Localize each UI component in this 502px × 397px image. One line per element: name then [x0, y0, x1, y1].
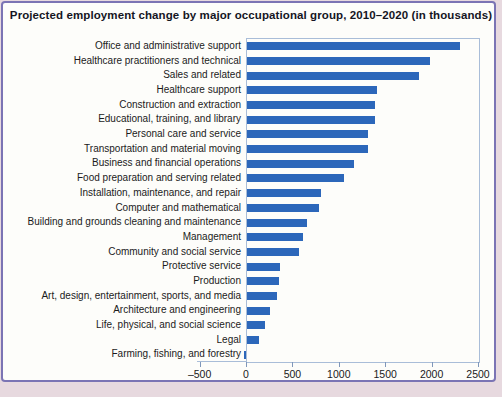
category-label: Transportation and material moving [0, 142, 241, 157]
bar-row: Farming, fishing, and forestry [0, 347, 502, 362]
category-label: Healthcare support [0, 83, 241, 98]
x-axis-tick [200, 362, 201, 367]
bar-row: Food preparation and serving related [0, 171, 502, 186]
bar-row: Production [0, 274, 502, 289]
category-label: Management [0, 230, 241, 245]
x-axis-tick [478, 362, 479, 367]
bar-row: Installation, maintenance, and repair [0, 186, 502, 201]
bar [247, 189, 321, 197]
category-label: Protective service [0, 259, 241, 274]
category-label: Architecture and engineering [0, 303, 241, 318]
x-axis-tick [246, 362, 247, 367]
bar-row: Educational, training, and library [0, 112, 502, 127]
bar [247, 42, 460, 50]
bar-row: Management [0, 230, 502, 245]
bar-row: Office and administrative support [0, 39, 502, 54]
bar-row: Healthcare practitioners and technical [0, 54, 502, 69]
x-tick-label: 500 [272, 368, 312, 380]
bar [247, 130, 368, 138]
bar-row: Computer and mathematical [0, 201, 502, 216]
bar [247, 57, 430, 65]
x-tick-label: 0 [226, 368, 266, 380]
bar-row: Architecture and engineering [0, 303, 502, 318]
category-label: Building and grounds cleaning and mainte… [0, 215, 241, 230]
bar [247, 307, 270, 315]
category-label: Food preparation and serving related [0, 171, 241, 186]
bar [247, 321, 265, 329]
bar-row: Sales and related [0, 68, 502, 83]
category-label: Computer and mathematical [0, 201, 241, 216]
bar [247, 292, 277, 300]
bar [247, 72, 419, 80]
category-label: Installation, maintenance, and repair [0, 186, 241, 201]
x-tick-label: 1000 [319, 368, 359, 380]
bar-row: Life, physical, and social science [0, 318, 502, 333]
bar [247, 263, 280, 271]
bar-row: Construction and extraction [0, 98, 502, 113]
category-label: Personal care and service [0, 127, 241, 142]
x-axis-tick [385, 362, 386, 367]
category-label: Farming, fishing, and forestry [0, 347, 241, 362]
bar [247, 204, 319, 212]
bar [247, 86, 377, 94]
bar-row: Personal care and service [0, 127, 502, 142]
category-label: Construction and extraction [0, 98, 241, 113]
bar [247, 336, 259, 344]
bar [247, 160, 354, 168]
x-axis-tick [432, 362, 433, 367]
bar [247, 116, 375, 124]
bar [247, 248, 299, 256]
bar [247, 174, 344, 182]
bar [247, 145, 368, 153]
bar [247, 233, 303, 241]
category-label: Sales and related [0, 68, 241, 83]
category-label: Business and financial operations [0, 156, 241, 171]
bar-row: Art, design, entertainment, sports, and … [0, 289, 502, 304]
category-label: Community and social service [0, 245, 241, 260]
x-tick-label: 1500 [365, 368, 405, 380]
plot-area: Office and administrative supportHealthc… [0, 0, 502, 397]
bar-row: Building and grounds cleaning and mainte… [0, 215, 502, 230]
bar [247, 277, 279, 285]
bar-row: Legal [0, 333, 502, 348]
bar-row: Community and social service [0, 245, 502, 260]
x-tick-label: 2500 [458, 368, 498, 380]
x-axis-tick [292, 362, 293, 367]
bar [247, 101, 375, 109]
category-label: Legal [0, 333, 241, 348]
bar [247, 219, 307, 227]
bar-row: Protective service [0, 259, 502, 274]
x-tick-label: –500 [180, 368, 220, 380]
category-label: Art, design, entertainment, sports, and … [0, 289, 241, 304]
category-label: Office and administrative support [0, 39, 241, 54]
x-tick-label: 2000 [412, 368, 452, 380]
category-label: Educational, training, and library [0, 112, 241, 127]
bar-row: Business and financial operations [0, 156, 502, 171]
category-label: Production [0, 274, 241, 289]
x-axis-tick [339, 362, 340, 367]
bar-row: Transportation and material moving [0, 142, 502, 157]
bar-row: Healthcare support [0, 83, 502, 98]
category-label: Life, physical, and social science [0, 318, 241, 333]
bar [244, 351, 246, 359]
category-label: Healthcare practitioners and technical [0, 54, 241, 69]
